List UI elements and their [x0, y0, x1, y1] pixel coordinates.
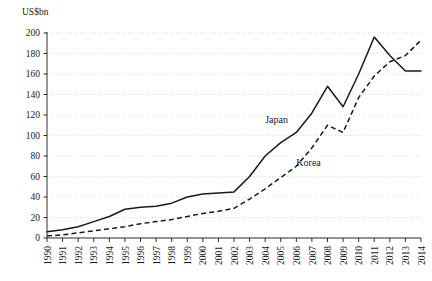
x-axis-tick-label: 2002 — [230, 246, 240, 265]
x-axis-tick-label: 2007 — [308, 246, 318, 265]
y-axis-tick-label: 80 — [31, 151, 41, 161]
y-axis-tick-label: 200 — [26, 28, 41, 38]
x-axis-tick-label: 2009 — [339, 246, 349, 265]
x-axis-tick-label: 1997 — [152, 246, 162, 265]
x-axis-tick-label: 2000 — [198, 246, 208, 265]
x-axis-tick-label: 2001 — [214, 246, 224, 265]
x-axis-tick-label: 1993 — [89, 246, 99, 265]
y-axis-tick-label: 0 — [35, 233, 40, 243]
x-axis-tick-label: 2008 — [323, 246, 333, 265]
x-axis-tick-label: 2014 — [417, 246, 427, 265]
y-axis-tick-label: 100 — [26, 131, 41, 141]
x-axis-tick-label: 1990 — [43, 246, 53, 265]
line-chart: 020406080100120140160180200 199019911992… — [0, 0, 432, 281]
x-axis-tick-label: 1996 — [136, 246, 146, 265]
x-axis-tick-label: 2012 — [385, 246, 395, 265]
x-axis-tick-label: 1991 — [58, 246, 68, 265]
x-axis-tick-label: 2013 — [401, 246, 411, 265]
series-annotation-korea: Korea — [296, 157, 321, 168]
x-axis-tick-label: 2003 — [245, 246, 255, 265]
x-axis-tick-label: 1999 — [183, 246, 193, 265]
y-axis-tick-label: 180 — [26, 49, 41, 59]
chart-background — [0, 0, 432, 281]
x-axis-tick-label: 2011 — [370, 246, 380, 265]
series-annotation-japan: Japan — [265, 114, 288, 125]
x-axis-tick-label: 1998 — [167, 246, 177, 265]
x-axis-tick-label: 1992 — [74, 246, 84, 265]
x-axis-tick-label: 2006 — [292, 246, 302, 265]
y-axis-tick-label: 140 — [26, 90, 41, 100]
x-axis-tick-label: 1994 — [105, 246, 115, 265]
y-axis-tick-label: 40 — [31, 192, 41, 202]
y-axis-unit-label: US$bn — [22, 7, 49, 17]
y-axis-tick-label: 160 — [26, 69, 41, 79]
x-axis-tick-label: 1995 — [121, 246, 131, 265]
y-axis-tick-label: 20 — [31, 213, 41, 223]
x-axis-tick-label: 2010 — [354, 246, 364, 265]
chart-container: 020406080100120140160180200 199019911992… — [0, 0, 432, 281]
x-axis-tick-label: 2005 — [276, 246, 286, 265]
y-axis-tick-label: 120 — [26, 110, 41, 120]
x-axis-tick-label: 2004 — [261, 246, 271, 265]
y-axis-tick-label: 60 — [31, 172, 41, 182]
